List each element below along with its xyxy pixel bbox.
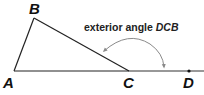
- caption: exterior angle DCB: [84, 21, 179, 33]
- segment-ab: [14, 18, 34, 71]
- label-d: D: [183, 74, 194, 91]
- point-d-dot: [187, 69, 190, 72]
- exterior-angle-diagram: exterior angle DCB A B C D: [0, 0, 204, 95]
- label-a: A: [2, 74, 14, 91]
- label-c: C: [123, 74, 135, 91]
- label-b: B: [29, 0, 40, 17]
